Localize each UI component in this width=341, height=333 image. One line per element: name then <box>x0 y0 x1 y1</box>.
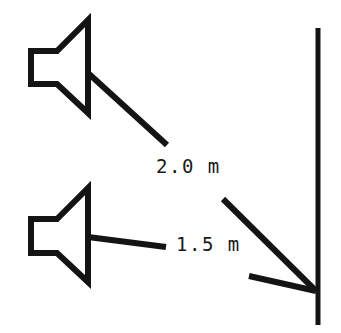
speaker-wall-diagram: 2.0 m 1.5 m <box>0 0 341 333</box>
distance-label-lower: 1.5 m <box>176 235 241 254</box>
ray-lower-segment-1 <box>88 237 166 247</box>
distance-label-upper: 2.0 m <box>156 157 221 176</box>
ray-upper-segment-1 <box>88 73 167 145</box>
speaker-lower-icon <box>31 188 88 282</box>
speaker-upper-icon <box>31 20 88 113</box>
